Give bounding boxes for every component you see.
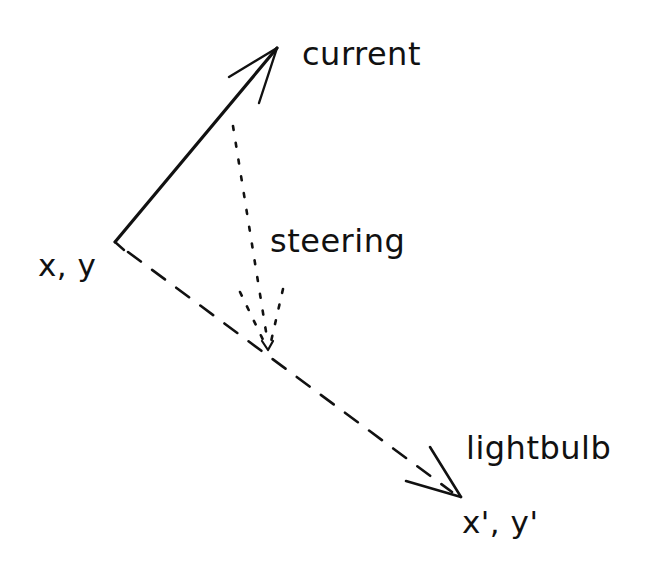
- diagram-svg: [0, 0, 645, 580]
- label-lightbulb: lightbulb: [466, 432, 611, 464]
- origin-corner: [115, 242, 124, 250]
- diagram-canvas: x, y current steering lightbulb x', y': [0, 0, 645, 580]
- lightbulb-arrow: [128, 252, 461, 497]
- current-arrow: [115, 48, 277, 242]
- label-current: current: [302, 38, 421, 70]
- label-target: x', y': [462, 507, 538, 538]
- label-origin: x, y: [38, 250, 96, 281]
- label-steering: steering: [270, 225, 405, 257]
